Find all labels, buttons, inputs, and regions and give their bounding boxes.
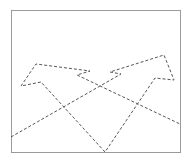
diagram-canvas [0, 0, 191, 163]
dashed-path [11, 55, 180, 152]
frame-border [12, 11, 181, 153]
